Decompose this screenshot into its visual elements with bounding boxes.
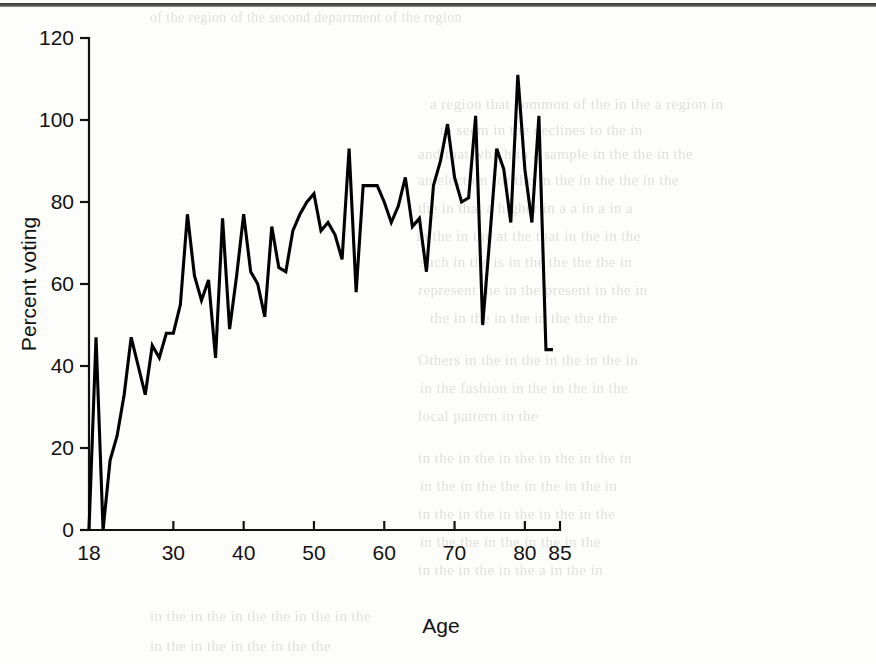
x-axis-tick-labels: 1830405060708085 bbox=[77, 541, 571, 564]
x-axis-tick-label: 85 bbox=[548, 541, 571, 564]
y-axis-tick-label: 40 bbox=[51, 354, 74, 377]
x-axis-tick-label: 18 bbox=[77, 541, 100, 564]
x-axis-title: Age bbox=[422, 614, 459, 637]
y-axis-tick-label: 20 bbox=[51, 436, 74, 459]
y-axis-tick-label: 0 bbox=[62, 518, 74, 541]
x-axis-tick-label: 80 bbox=[513, 541, 536, 564]
x-axis-tick-label: 50 bbox=[302, 541, 325, 564]
data-series-percent-voting bbox=[89, 75, 553, 530]
y-axis-tick-labels: 020406080100120 bbox=[39, 26, 74, 541]
x-axis-tick-label: 40 bbox=[232, 541, 255, 564]
y-axis-ticks bbox=[80, 38, 89, 530]
y-axis-tick-label: 100 bbox=[39, 108, 74, 131]
y-axis-tick-label: 80 bbox=[51, 190, 74, 213]
y-axis-tick-label: 120 bbox=[39, 26, 74, 49]
y-axis-title: Percent voting bbox=[17, 217, 40, 351]
y-axis-tick-label: 60 bbox=[51, 272, 74, 295]
x-axis-tick-label: 30 bbox=[162, 541, 185, 564]
x-axis-tick-label: 60 bbox=[373, 541, 396, 564]
x-axis-tick-label: 70 bbox=[443, 541, 466, 564]
x-axis-ticks bbox=[89, 521, 560, 530]
percent-voting-line-chart: 020406080100120 1830405060708085 Age Per… bbox=[0, 0, 876, 664]
